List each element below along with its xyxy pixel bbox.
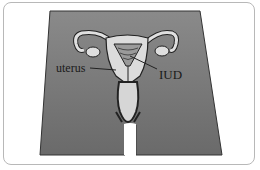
ovary-left bbox=[86, 47, 100, 57]
ovary-right bbox=[155, 46, 169, 56]
anatomy-illustration bbox=[0, 0, 260, 170]
uterus-label: uterus bbox=[56, 61, 85, 76]
vaginal-canal bbox=[118, 82, 139, 122]
iud-label: IUD bbox=[159, 67, 182, 83]
